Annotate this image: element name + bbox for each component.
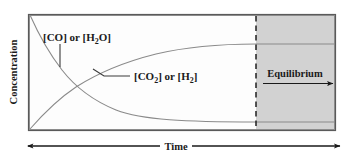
- equilibrium-region-label: Equilibrium: [267, 68, 323, 79]
- equilibrium-concentration-figure: [CO] or [H2O] [CO2] or [H2] Equilibrium …: [0, 0, 350, 161]
- x-axis-label: Time: [164, 141, 187, 152]
- figure-canvas: [CO] or [H2O] [CO2] or [H2] Equilibrium …: [0, 0, 350, 161]
- y-axis-label: Concentration: [8, 39, 19, 104]
